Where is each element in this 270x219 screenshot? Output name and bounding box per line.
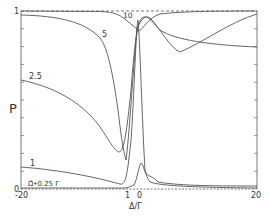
curve-label-5: 5 [102,30,107,39]
x-axis-label: Δ/Γ [129,202,142,211]
x-tick-0: 0 [137,191,142,200]
x-tick-20: 20 [251,191,261,200]
curve-label-25: 2.5 [29,72,42,81]
y-axis-ticks [21,29,257,171]
y-axis-label: P [9,101,17,116]
x-tick-neg20: -20 [15,191,28,200]
curve-label-10: 10 [123,11,133,20]
curve-label-1: 1 [30,159,35,168]
y-tick-1: 1 [14,7,19,16]
line-chart: 1 0 P -20 1 0 20 Δ/Γ 10 5 2.5 1 Ω̄•0.25 … [0,0,270,219]
curve-label-025: Ω̄•0.25 Γ [28,180,59,188]
x-tick-1: 1 [125,191,130,200]
